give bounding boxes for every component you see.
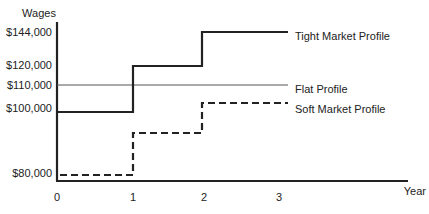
y-axis-title: Wages — [22, 7, 56, 19]
flat-profile-label: Flat Profile — [295, 83, 348, 95]
wage-profile-chart: Wages $144,000 $120,000 $110,000 $100,00… — [0, 0, 429, 214]
x-axis-title: Year — [404, 185, 427, 197]
x-tick-0: 0 — [54, 191, 60, 203]
x-tick-3: 3 — [276, 191, 282, 203]
x-tick-2: 2 — [201, 191, 207, 203]
x-tick-1: 1 — [130, 191, 136, 203]
y-tick-110000: $110,000 — [7, 79, 52, 91]
y-tick-80000: $80,000 — [12, 167, 52, 179]
y-tick-120000: $120,000 — [6, 59, 52, 71]
y-tick-100000: $100,000 — [6, 102, 52, 114]
tight-market-profile-line — [57, 32, 288, 112]
soft-market-profile-line — [60, 103, 288, 175]
tight-market-label: Tight Market Profile — [295, 30, 390, 42]
y-tick-144000: $144,000 — [6, 26, 52, 38]
soft-market-label: Soft Market Profile — [295, 103, 385, 115]
